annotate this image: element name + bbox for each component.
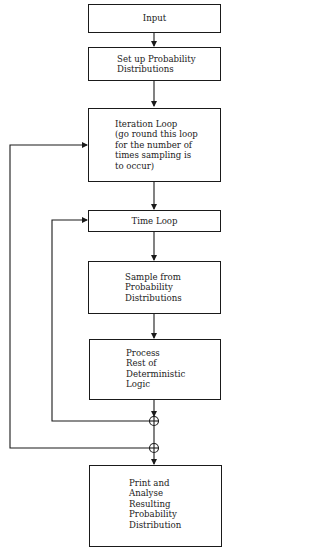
node-time-loop: Time Loop: [88, 210, 221, 232]
node-sample-distributions: Sample from Probability Distributions: [88, 261, 221, 314]
node-process-line: Process: [126, 348, 185, 358]
node-iteration-line: for the number of: [115, 140, 198, 150]
node-print-line: Distribution: [129, 520, 181, 530]
node-iteration-line: to occur): [115, 161, 198, 171]
node-setup-line: Set up Probability: [117, 54, 196, 64]
node-print-analyse: Print and Analyse Resulting Probability …: [89, 465, 222, 547]
node-print-line: Print and: [129, 478, 181, 488]
node-iteration-loop: Iteration Loop (go round this loop for t…: [88, 108, 221, 182]
node-input: Input: [88, 4, 221, 33]
node-iteration-line: times sampling is: [115, 150, 198, 160]
node-iteration-line: (go round this loop: [115, 129, 198, 139]
node-setup-probability-distributions: Set up Probability Distributions: [88, 47, 221, 81]
node-print-line: Analyse: [129, 488, 181, 498]
node-sample-line: Sample from: [125, 272, 182, 282]
node-process-line: Logic: [126, 379, 185, 389]
node-print-line: Probability: [129, 509, 181, 519]
node-iteration-line: Iteration Loop: [115, 119, 198, 129]
node-sample-line: Distributions: [125, 293, 182, 303]
node-input-text: Input: [143, 13, 166, 23]
node-process-line: Rest of: [126, 358, 185, 368]
node-process-logic: Process Rest of Deterministic Logic: [89, 339, 221, 400]
node-sample-line: Probability: [125, 282, 182, 292]
node-setup-line: Distributions: [117, 64, 196, 74]
node-process-line: Deterministic: [126, 369, 185, 379]
node-print-line: Resulting: [129, 499, 181, 509]
node-time-text: Time Loop: [131, 216, 177, 226]
